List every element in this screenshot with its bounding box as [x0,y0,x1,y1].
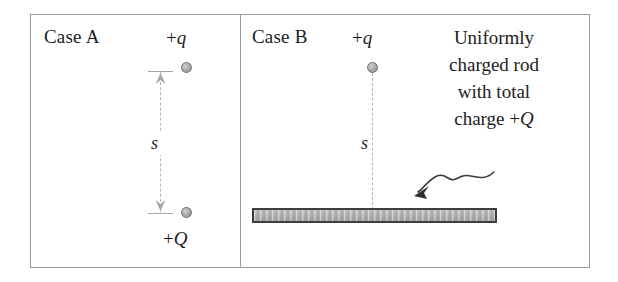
case-a-bottom-charge-sign: + [163,228,174,249]
case-b-top-charge-label: +q [352,27,372,49]
case-b-distance-dashed-line [372,73,373,215]
case-a-label: Case A [44,26,100,48]
case-a-top-charge-label: +q [166,27,186,49]
case-b-top-charge-symbol: q [363,27,373,48]
case-a-distance-label: s [148,132,161,155]
panel-divider [240,14,241,268]
case-b-top-charge-sign: + [352,27,363,48]
case-a-top-charge-sign: + [166,27,177,48]
case-a-top-charge-dot [181,62,192,73]
case-b-top-charge-dot [367,62,378,73]
rod-annotation-charge-symbol: Q [520,108,534,129]
case-a-top-charge-symbol: q [177,27,187,48]
rod-annotation-line-1: Uniformly [400,24,588,51]
rod-annotation-line-4: charge +Q [400,105,588,132]
charged-rod [252,208,497,223]
physics-figure: Case A +q s +Q Case B +q s Uniformly cha… [0,0,618,282]
case-b-label: Case B [252,26,308,48]
case-a-bottom-tick [148,213,173,214]
rod-annotation: Uniformly charged rod with total charge … [400,24,588,132]
case-a-top-tick [148,71,173,72]
rod-annotation-line-2: charged rod [400,51,588,78]
case-a-bottom-charge-symbol: Q [174,228,188,249]
case-a-bottom-charge-label: +Q [163,228,187,250]
case-a-bottom-charge-dot [181,207,192,218]
rod-annotation-charge-prefix: charge + [454,108,520,129]
case-b-distance-label: s [358,132,371,155]
rod-annotation-line-3: with total [400,78,588,105]
